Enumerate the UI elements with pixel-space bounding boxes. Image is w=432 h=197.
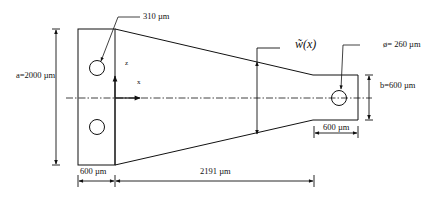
dimension-bottom xyxy=(78,126,358,187)
width-function-label: w̃(x) xyxy=(295,38,316,50)
axis-x-label: x xyxy=(137,79,141,86)
dimension-w xyxy=(257,48,280,134)
beam-diagram: 310 µm a=2000 µm z x w̃(x) ø= 260 µm b=6… xyxy=(0,0,432,197)
left-anchor-pad xyxy=(78,29,115,165)
left-height-label: a=2000 µm xyxy=(16,71,55,80)
taper-top-edge xyxy=(115,29,313,75)
hole-offset-label: 310 µm xyxy=(143,12,169,21)
left-pad-width-label: 600 µm xyxy=(80,167,106,176)
hole-bottom-left xyxy=(90,120,105,135)
right-pad-width-label: 600 µm xyxy=(323,123,349,132)
axis-z-label: z xyxy=(125,60,128,67)
right-height-label: b=600 µm xyxy=(380,81,415,90)
dimension-b xyxy=(365,75,373,120)
hole-top-left xyxy=(90,61,105,76)
leader-260 xyxy=(341,45,360,89)
taper-bottom-edge xyxy=(115,120,313,165)
leader-310 xyxy=(101,17,140,61)
dimension-a xyxy=(52,29,60,165)
hole-diameter-label: ø= 260 µm xyxy=(383,40,421,49)
coordinate-axes xyxy=(115,76,140,165)
taper-length-label: 2191 µm xyxy=(200,167,231,176)
right-tip-pad xyxy=(313,75,358,120)
